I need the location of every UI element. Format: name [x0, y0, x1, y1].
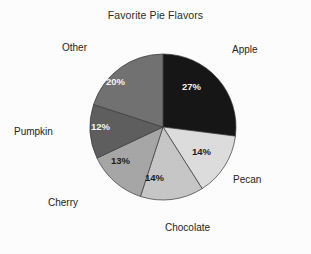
slice-value-other: 20%: [106, 76, 125, 87]
slice-label-apple: Apple: [232, 44, 258, 55]
slice-label-pecan: Pecan: [233, 174, 261, 185]
slice-label-chocolate: Chocolate: [165, 222, 210, 233]
slice-value-chocolate: 14%: [145, 172, 164, 183]
slice-value-pecan: 14%: [192, 146, 211, 157]
pie-chart-figure: Favorite Pie Flavors Apple Pecan Chocola…: [0, 0, 311, 254]
slice-value-apple: 27%: [182, 81, 201, 92]
pie-slice-apple[interactable]: [163, 54, 236, 136]
slice-label-cherry: Cherry: [48, 197, 78, 208]
slice-label-pumpkin: Pumpkin: [14, 126, 53, 137]
slice-value-pumpkin: 12%: [91, 121, 110, 132]
slice-label-other: Other: [62, 42, 87, 53]
slice-value-cherry: 13%: [111, 155, 130, 166]
